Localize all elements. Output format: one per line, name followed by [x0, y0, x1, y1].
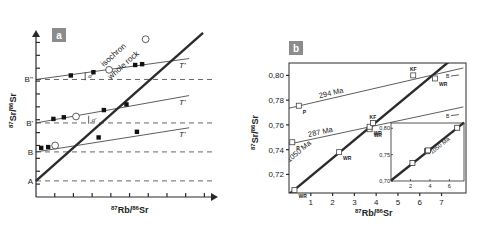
panel-b-point-label: WR: [298, 193, 307, 199]
panel-b-y-tick-label: 0,80: [268, 71, 284, 80]
figure: a ABB'B'' T'T'T'isochronwhole rock α'α' …: [0, 0, 478, 229]
panel-b-x-tick-label: 4: [374, 198, 379, 207]
panel-b: b 12345670,720,740,760,780,80 1050 Ma294…: [250, 41, 466, 218]
panel-b-inset-x-tick-label: 4: [428, 183, 431, 189]
panel-a-whole-rock-point: [73, 113, 80, 120]
panel-b-arrow-icon: [451, 115, 459, 116]
panel-b-x-label: 87Rb/86Sr: [355, 208, 393, 218]
panel-a-mineral-isochron: [36, 128, 189, 152]
panel-a-level-label: B'': [25, 75, 34, 84]
panel-b-sample-point: [296, 103, 301, 108]
panel-a-mineral-point: [124, 102, 128, 106]
panel-b-sample-point: [292, 187, 297, 192]
panel-b-inset-y-tick-label: 0,80: [379, 125, 390, 131]
panel-a-x-arrow-icon: [211, 193, 218, 201]
panel-b-y-label: 87Sr/86Sr: [250, 115, 260, 150]
panel-b-badge-label: b: [293, 43, 299, 54]
panel-a-badge-label: a: [56, 30, 62, 41]
panel-b-sample-point: [433, 76, 438, 81]
panel-a-isochron-label: T': [179, 61, 186, 70]
panel-b-inset-x-tick-label: 6: [448, 183, 451, 189]
panel-a-whole-rock-point: [52, 142, 59, 149]
panel-b-y-tick-label: 0,72: [268, 170, 284, 179]
panel-b-sample-point: [370, 121, 375, 126]
panel-b-point-label: WR: [439, 81, 448, 87]
panel-b-x-tick-label: 7: [439, 198, 444, 207]
panel-b-line-end-label: B: [446, 113, 450, 119]
panel-b-arrow-icon: [451, 75, 459, 76]
panel-b-y-tick-label: 0,78: [268, 96, 284, 105]
panel-a-mineral-point: [140, 62, 144, 66]
panel-b-point-label: P: [303, 109, 307, 115]
panel-b-inset-y-tick-label: 0,70: [379, 178, 390, 184]
panel-a-mineral-point: [69, 73, 73, 77]
panel-b-point-label: KF: [410, 66, 417, 72]
panel-a-mineral-point: [135, 130, 139, 134]
panel-a: a ABB'B'' T'T'T'isochronwhole rock α'α' …: [8, 28, 218, 215]
panel-a-level-label: B: [28, 148, 33, 157]
panel-a-level-label: B': [26, 119, 33, 128]
panel-a-whole-rock-point: [106, 66, 113, 73]
panel-b-inset-x-tick-label: 2: [409, 183, 412, 189]
panel-a-x-label: 87Rb/86Sr: [111, 205, 149, 215]
panel-b-x-tick-label: 2: [330, 198, 335, 207]
panel-a-y-label: 87Sr/86Sr: [8, 93, 18, 128]
panel-a-mineral-point: [39, 146, 43, 150]
panel-b-point-label: KF: [370, 114, 377, 120]
panel-b-isochron-label: 294 Ma: [318, 86, 345, 101]
panel-b-x-tick-label: 5: [396, 198, 401, 207]
panel-a-whole-rock-point: [142, 36, 149, 43]
panel-b-isochron-294-ma: [289, 68, 463, 108]
panel-b-sample-point: [290, 140, 295, 145]
panel-b-sample-point: [337, 150, 342, 155]
panel-a-isochron-label: T': [179, 130, 186, 139]
panel-a-mineral-point: [133, 63, 137, 67]
panel-a-y-arrow-icon: [32, 30, 40, 37]
panel-b-inset-point: [425, 148, 430, 153]
panel-b-inset-y-tick-label: 0,75: [379, 152, 390, 158]
panel-a-mineral-point: [96, 135, 100, 139]
panel-a-angle-label: α': [92, 117, 97, 123]
panel-b-inset-point: [455, 125, 460, 130]
panel-b-inset-point: [410, 161, 415, 166]
panel-b-x-tick-label: 3: [352, 198, 357, 207]
panel-b-y-tick-label: 0,74: [268, 146, 284, 155]
panel-b-x-tick-label: 1: [309, 198, 314, 207]
panel-b-y-tick-label: 0,76: [268, 121, 284, 130]
panel-a-mineral-point: [46, 145, 50, 149]
panel-a-mineral-isochron: [36, 96, 189, 123]
panel-a-mineral-point: [62, 115, 66, 119]
panel-b-sample-point: [411, 73, 416, 78]
panel-b-line-end-label: B: [446, 73, 450, 79]
panel-a-mineral-point: [102, 108, 106, 112]
panel-a-level-label: A: [28, 177, 34, 186]
panel-b-point-label: WR: [343, 155, 352, 161]
panel-b-x-tick-label: 6: [418, 198, 423, 207]
panel-b-isochron-label: 287 Ma: [307, 125, 334, 139]
panel-a-mineral-point: [51, 117, 55, 121]
panel-a-isochron-label: T': [179, 98, 186, 107]
